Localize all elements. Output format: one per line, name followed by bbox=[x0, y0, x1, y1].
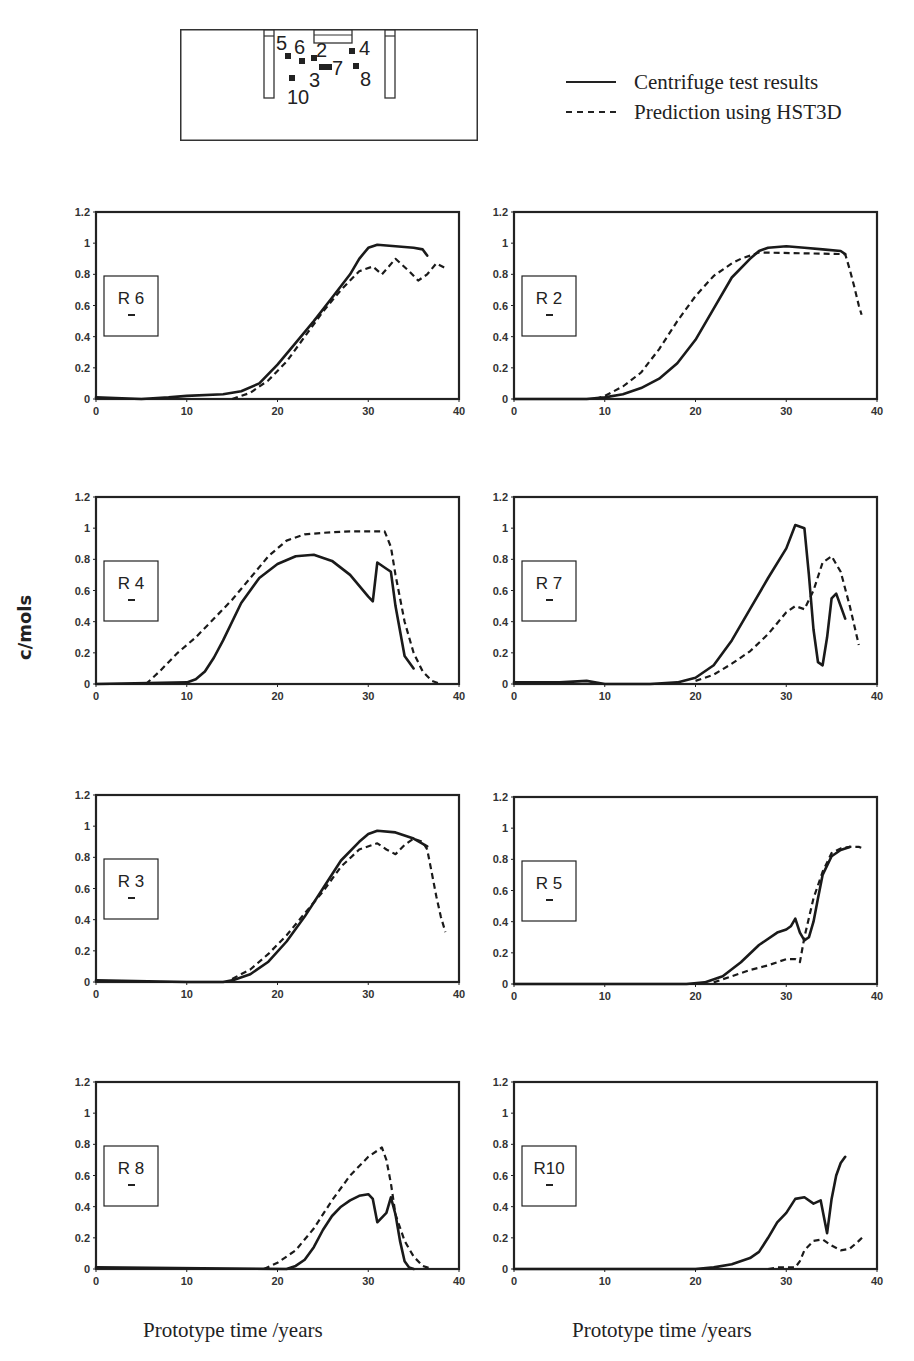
series-id-label: R 4 bbox=[118, 574, 144, 593]
legend: Centrifuge test results Prediction using… bbox=[560, 68, 890, 128]
chart-svg: 00.20.40.60.811.2010203040R 3 bbox=[60, 788, 480, 1008]
x-tick-label: 0 bbox=[511, 1275, 517, 1287]
y-tick-label: 0.8 bbox=[493, 553, 508, 565]
y-tick-label: 0.4 bbox=[75, 331, 91, 343]
x-tick-label: 0 bbox=[93, 690, 99, 702]
y-tick-label: 1 bbox=[502, 1107, 508, 1119]
diagram-label-5: 5 bbox=[276, 32, 287, 54]
y-tick-label: 0.2 bbox=[493, 1232, 508, 1244]
series-id-box: R 5 bbox=[522, 861, 576, 921]
y-tick-label: 0.8 bbox=[493, 268, 508, 280]
x-tick-label: 40 bbox=[871, 990, 883, 1002]
y-tick-label: 0.4 bbox=[75, 616, 91, 628]
diagram-label-4: 4 bbox=[359, 37, 370, 59]
x-tick-label: 30 bbox=[362, 405, 374, 417]
x-tick-label: 40 bbox=[871, 690, 883, 702]
series-id-label: R 5 bbox=[536, 874, 562, 893]
diagram-label-10: 10 bbox=[287, 86, 309, 108]
chart-svg: 00.20.40.60.811.2010203040R 2 bbox=[478, 205, 898, 425]
x-tick-label: 0 bbox=[93, 988, 99, 1000]
y-tick-label: 0.6 bbox=[493, 1170, 508, 1182]
y-tick-label: 1 bbox=[84, 522, 90, 534]
diagram-label-6: 6 bbox=[294, 36, 305, 58]
legend-item-prediction: Prediction using HST3D bbox=[560, 100, 842, 124]
y-tick-label: 0.4 bbox=[493, 616, 509, 628]
x-tick-label: 10 bbox=[599, 990, 611, 1002]
y-tick-label: 0.2 bbox=[493, 362, 508, 374]
x-tick-label: 10 bbox=[181, 405, 193, 417]
chart-svg: 00.20.40.60.811.2010203040R 7 bbox=[478, 490, 898, 710]
series-id-box: R 8 bbox=[104, 1146, 158, 1206]
y-tick-label: 0 bbox=[502, 393, 508, 405]
y-tick-label: 0.2 bbox=[75, 1232, 90, 1244]
series-id-label: R10 bbox=[533, 1159, 564, 1178]
series-id-box: R10 bbox=[522, 1146, 576, 1206]
y-tick-label: 0 bbox=[502, 1263, 508, 1275]
x-tick-label: 0 bbox=[511, 405, 517, 417]
y-tick-label: 0.4 bbox=[75, 1201, 91, 1213]
diagram-label-7: 7 bbox=[332, 57, 343, 79]
y-tick-label: 1 bbox=[84, 1107, 90, 1119]
series-id-box: R 3 bbox=[104, 859, 158, 919]
y-tick-label: 0.6 bbox=[75, 585, 90, 597]
y-tick-label: 0.6 bbox=[75, 1170, 90, 1182]
y-tick-label: 0.8 bbox=[493, 853, 508, 865]
y-tick-label: 0.4 bbox=[493, 331, 509, 343]
legend-label: Centrifuge test results bbox=[634, 70, 818, 95]
x-axis-label-right: Prototype time /years bbox=[572, 1318, 752, 1343]
chart-svg: 00.20.40.60.811.2010203040R 4 bbox=[60, 490, 480, 710]
y-tick-label: 0.8 bbox=[75, 268, 90, 280]
y-tick-label: 0 bbox=[502, 978, 508, 990]
series-id-label: R 6 bbox=[118, 289, 144, 308]
y-tick-label: 1 bbox=[502, 522, 508, 534]
x-tick-label: 20 bbox=[271, 405, 283, 417]
y-tick-label: 1.2 bbox=[75, 491, 90, 503]
x-tick-label: 30 bbox=[780, 1275, 792, 1287]
x-tick-label: 0 bbox=[511, 690, 517, 702]
solid-line-icon bbox=[566, 81, 616, 83]
y-tick-label: 0.6 bbox=[493, 585, 508, 597]
y-tick-label: 1 bbox=[502, 822, 508, 834]
series-id-label: R 3 bbox=[118, 872, 144, 891]
chart-svg: 00.20.40.60.811.2010203040R10 bbox=[478, 1075, 898, 1295]
y-tick-label: 0.4 bbox=[493, 1201, 509, 1213]
x-tick-label: 40 bbox=[871, 405, 883, 417]
dashed-line-icon bbox=[566, 111, 616, 113]
y-tick-label: 0 bbox=[84, 678, 90, 690]
y-tick-label: 1.2 bbox=[75, 206, 90, 218]
y-tick-label: 1.2 bbox=[493, 206, 508, 218]
diagram-label-8: 8 bbox=[360, 68, 371, 90]
x-tick-label: 40 bbox=[871, 1275, 883, 1287]
y-tick-label: 0.6 bbox=[75, 883, 90, 895]
site-diagram: 5 6 2 4 7 8 3 10 bbox=[180, 29, 478, 141]
legend-label: Prediction using HST3D bbox=[634, 100, 842, 125]
x-tick-label: 20 bbox=[689, 690, 701, 702]
x-tick-label: 20 bbox=[271, 988, 283, 1000]
y-tick-label: 0.6 bbox=[75, 300, 90, 312]
diagram-label-2: 2 bbox=[316, 39, 327, 61]
chart-svg: 00.20.40.60.811.2010203040R 5 bbox=[478, 790, 898, 1010]
legend-item-centrifuge: Centrifuge test results bbox=[560, 70, 818, 94]
series-id-box: R 6 bbox=[104, 276, 158, 336]
diagram-label-3: 3 bbox=[309, 69, 320, 91]
x-tick-label: 30 bbox=[780, 690, 792, 702]
y-tick-label: 0.2 bbox=[493, 647, 508, 659]
y-tick-label: 1.2 bbox=[493, 491, 508, 503]
y-tick-label: 0.4 bbox=[75, 914, 91, 926]
x-tick-label: 10 bbox=[181, 690, 193, 702]
y-tick-label: 0.2 bbox=[75, 945, 90, 957]
y-tick-label: 0 bbox=[84, 976, 90, 988]
series-id-label: R 7 bbox=[536, 574, 562, 593]
y-tick-label: 0.6 bbox=[493, 300, 508, 312]
y-axis-label: c/mols bbox=[14, 595, 35, 660]
series-id-box: R 2 bbox=[522, 276, 576, 336]
series-id-box: R 4 bbox=[104, 561, 158, 621]
x-tick-label: 30 bbox=[780, 405, 792, 417]
chart-svg: 00.20.40.60.811.2010203040R 6 bbox=[60, 205, 480, 425]
y-tick-label: 1 bbox=[502, 237, 508, 249]
y-tick-label: 1.2 bbox=[75, 789, 90, 801]
x-tick-label: 40 bbox=[453, 1275, 465, 1287]
x-axis-label-left: Prototype time /years bbox=[143, 1318, 323, 1343]
y-tick-label: 0 bbox=[84, 393, 90, 405]
y-tick-label: 1.2 bbox=[493, 791, 508, 803]
